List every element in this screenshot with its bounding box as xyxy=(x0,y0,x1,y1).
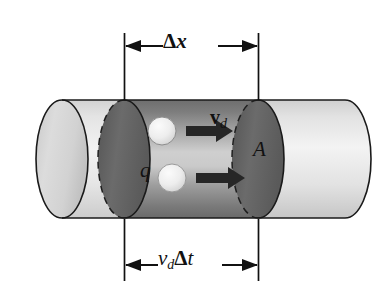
bottom-arrowhead-left xyxy=(125,259,141,271)
drift-velocity-label: vd xyxy=(210,107,227,131)
delta-x-label: Δx xyxy=(163,31,187,52)
vd-delta-t-v-symbol: v xyxy=(158,246,167,270)
delta-x-delta-symbol: Δ xyxy=(163,29,176,53)
vd-delta-t-t-symbol: t xyxy=(188,246,194,270)
current-drift-velocity-diagram: Δx vdΔt vd A q xyxy=(0,0,379,291)
top-arrowhead-left xyxy=(125,40,141,52)
drift-velocity-subscript: d xyxy=(220,116,227,131)
delta-x-variable: x xyxy=(176,29,187,53)
top-dimension-line xyxy=(125,33,259,100)
cylinder-left-cap xyxy=(36,100,88,218)
drift-velocity-symbol: v xyxy=(210,106,220,128)
charge-label: q xyxy=(140,160,151,181)
left-cap-ellipse xyxy=(36,100,88,218)
vd-delta-t-delta-symbol: Δ xyxy=(174,246,187,270)
lower-charge-carrier xyxy=(158,164,186,192)
upper-charge-carrier xyxy=(148,117,176,145)
top-arrowhead-right xyxy=(242,40,258,52)
bottom-arrowhead-right xyxy=(242,259,258,271)
vd-delta-t-label: vdΔt xyxy=(158,248,193,272)
area-label: A xyxy=(253,139,266,160)
